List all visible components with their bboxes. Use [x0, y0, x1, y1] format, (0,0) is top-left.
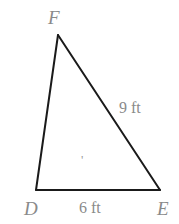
side-length-label-fe: 9 ft [119, 100, 141, 116]
triangle-side-DF [36, 35, 58, 190]
vertex-label-e: E [157, 199, 169, 218]
side-length-label-de: 6 ft [79, 200, 101, 216]
vertex-label-f: F [48, 8, 60, 27]
stray-apostrophe-mark: ' [81, 153, 84, 160]
triangle-side-FE [58, 35, 160, 190]
triangle-shape [0, 0, 179, 224]
geometry-figure: F D E 9 ft 6 ft ' [0, 0, 179, 224]
vertex-label-d: D [24, 199, 38, 218]
